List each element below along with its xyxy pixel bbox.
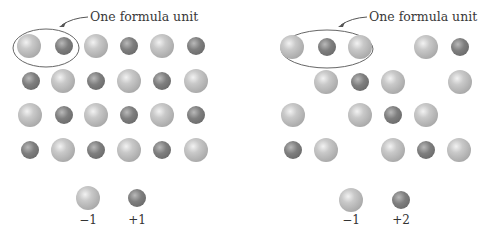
left-anion-sphere — [84, 34, 108, 58]
left-cation-sphere — [153, 141, 171, 159]
left-legend-cation-charge: +1 — [128, 213, 146, 227]
left-anion-sphere — [17, 34, 41, 58]
left-cation-sphere — [22, 72, 40, 90]
left-anion-sphere — [18, 103, 42, 127]
right-cation-sphere — [451, 38, 469, 56]
right-anion-sphere — [348, 103, 372, 127]
right-anion-sphere — [414, 35, 438, 59]
right-cation-sphere — [384, 106, 402, 124]
right-anion-sphere — [280, 35, 304, 59]
right-cation-sphere — [284, 141, 302, 159]
left-anion-sphere — [117, 69, 141, 93]
right-legend-cation — [392, 191, 410, 209]
left-cation-sphere — [55, 37, 73, 55]
left-anion-sphere — [51, 69, 75, 93]
left-anion-sphere — [51, 138, 75, 162]
right-legend-anion — [339, 188, 363, 212]
left-anion-sphere — [117, 138, 141, 162]
left-anion-sphere — [150, 34, 174, 58]
right-anion-sphere — [381, 138, 405, 162]
right-anion-sphere — [314, 70, 338, 94]
left-legend-cation — [128, 189, 146, 207]
left-anion-sphere — [84, 103, 108, 127]
right-cation-sphere — [417, 141, 435, 159]
left-cation-sphere — [187, 106, 205, 124]
right-cation-sphere — [318, 38, 336, 56]
right-anion-sphere — [447, 138, 471, 162]
left-legend-anion — [76, 186, 100, 210]
left-anion-sphere — [184, 138, 208, 162]
left-cation-sphere — [87, 72, 105, 90]
left-anion-sphere — [184, 69, 208, 93]
right-anion-sphere — [414, 103, 438, 127]
right-anion-sphere — [281, 103, 305, 127]
left-callout-arrow-icon — [62, 17, 88, 25]
left-callout-label: One formula unit — [90, 9, 198, 24]
left-cation-sphere — [120, 106, 138, 124]
right-cation-sphere — [351, 73, 369, 91]
left-cation-sphere — [87, 141, 105, 159]
left-cation-sphere — [120, 37, 138, 55]
right-callout-label: One formula unit — [369, 9, 477, 24]
left-cation-sphere — [153, 72, 171, 90]
right-callout-arrow-icon — [341, 17, 367, 25]
right-anion-sphere — [448, 70, 472, 94]
left-legend-anion-charge: −1 — [79, 213, 97, 227]
left-cation-sphere — [55, 106, 73, 124]
left-cation-sphere — [187, 37, 205, 55]
right-anion-sphere — [314, 138, 338, 162]
right-legend-anion-charge: −1 — [342, 213, 360, 227]
left-anion-sphere — [150, 103, 174, 127]
right-anion-sphere — [348, 35, 372, 59]
right-anion-sphere — [381, 70, 405, 94]
right-legend-cation-charge: +2 — [392, 213, 410, 227]
left-cation-sphere — [21, 141, 39, 159]
